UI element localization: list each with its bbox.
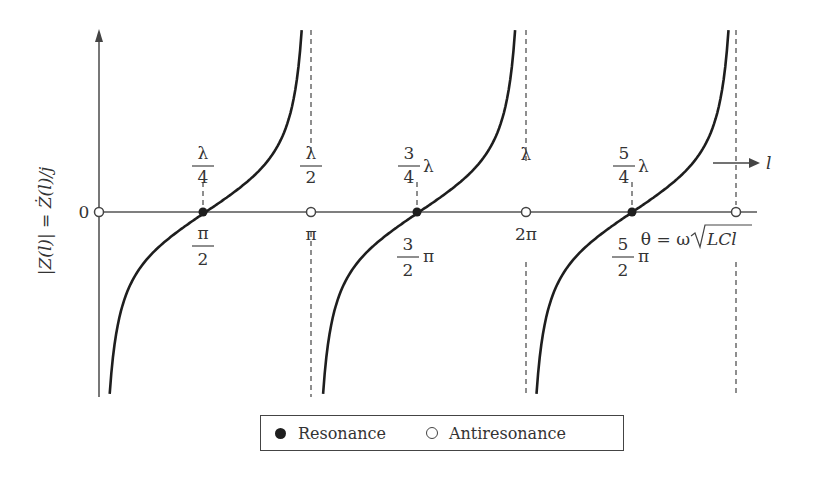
label-3pi2-num: 3 [403,234,414,254]
label-3lambda4-num: 3 [404,143,415,163]
legend-label-antiresonance: Antiresonance [449,424,566,443]
theta-equation: θ = ω [641,229,690,249]
label-3lambda4-suffix: λ [423,156,434,176]
legend-item-resonance: Resonance [261,424,386,443]
y-axis-label: |Z(l)| = Ż(l)/j [35,166,55,275]
legend-label-resonance: Resonance [298,424,386,443]
antiresonance-marker-2 [522,208,531,217]
antiresonance-marker-3 [732,208,741,217]
label-pi2-num: π [197,223,208,243]
origin-zero-label: 0 [79,202,90,222]
label-lambda: λ [521,144,532,164]
top-length-labels: λ 4 λ 2 3 4 λ λ 5 4 λ [192,143,649,187]
filled-circle-icon [275,428,286,439]
antiresonance-marker-0 [95,208,104,217]
right-arrow-icon [749,158,760,168]
antiresonance-marker-1 [307,208,316,217]
label-lambda2-num: λ [306,143,317,163]
label-5lambda4-suffix: λ [638,156,649,176]
l-label: l [766,153,771,173]
sqrt-argument: LCl [706,229,737,249]
label-5pi2-num: 5 [618,234,629,254]
y-axis-arrow-icon [95,29,103,42]
label-5pi2-suffix: π [638,246,649,266]
impedance-diagram: |Z(l)| = Ż(l)/j 0 λ 4 λ 2 3 4 λ λ 5 4 λ … [0,0,818,477]
label-3pi2-den: 2 [403,260,414,280]
asymptote-lines [203,30,736,397]
label-5lambda4-num: 5 [619,143,630,163]
resonance-marker-3 [628,208,637,217]
label-2pi: 2π [515,224,537,244]
legend: Resonance Antiresonance [260,415,624,451]
open-circle-icon [426,427,438,439]
length-direction-indicator: l [713,153,771,173]
label-pi: π [305,224,316,244]
label-5pi2-den: 2 [618,260,629,280]
label-5lambda4-den: 4 [619,167,630,187]
label-lambda4-den: 4 [198,167,209,187]
resonance-marker-1 [199,208,208,217]
label-3lambda4-den: 4 [404,167,415,187]
legend-item-antiresonance: Antiresonance [386,424,566,443]
label-lambda2-den: 2 [306,167,317,187]
resonance-marker-2 [413,208,422,217]
label-pi2-den: 2 [198,249,209,269]
label-3pi2-suffix: π [423,246,434,266]
bottom-theta-labels: π 2 π 3 2 π 2π 5 2 π θ = ω LCl [192,223,752,280]
label-lambda4-num: λ [198,143,209,163]
